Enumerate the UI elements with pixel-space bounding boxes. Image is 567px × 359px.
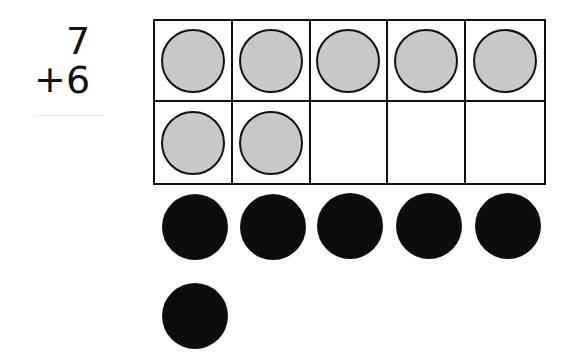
ten-frame-cell [311,21,389,102]
ten-frame-cell [233,21,311,102]
ten-frame-cell-empty [388,102,466,183]
black-counter [162,283,228,349]
ten-frame-cell [388,21,466,102]
ten-frame-cell [466,21,544,102]
addend-1: 7 [66,22,90,60]
ten-frame-cell-empty [466,102,544,183]
black-counter [475,193,541,259]
ten-frame-cell-empty [311,102,389,183]
black-counter [240,194,306,260]
ten-frame-cell [155,102,233,183]
gray-counter [473,29,537,93]
answer-line [34,115,104,116]
gray-counter [239,29,303,93]
gray-counter [316,29,380,93]
ten-frame-cell [233,102,311,183]
addend-2: 6 [66,61,90,99]
black-counter [162,194,228,260]
ten-frame-cell [155,21,233,102]
gray-counter [161,111,225,175]
gray-counter [161,29,225,93]
black-counter [396,193,462,259]
ten-frame [153,19,546,185]
gray-counter [394,29,458,93]
gray-counter [239,111,303,175]
plus-sign: + [34,60,66,98]
black-counter [317,193,383,259]
